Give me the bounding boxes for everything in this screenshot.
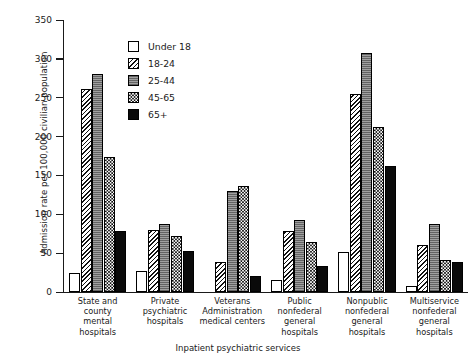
- legend-label: 45-65: [148, 92, 175, 103]
- x-category-label: Nonpublic nonfederal general hospitals: [333, 296, 400, 337]
- bar: [148, 230, 159, 292]
- bar: [69, 273, 80, 292]
- bar-group: [338, 20, 395, 292]
- bar: [183, 251, 194, 292]
- bar: [350, 94, 361, 292]
- bar: [406, 286, 417, 292]
- bar: [373, 127, 384, 292]
- y-tick-label: 350: [0, 15, 52, 25]
- bar: [271, 280, 282, 292]
- legend-item: 45-65: [128, 89, 238, 106]
- y-tick-mark: [56, 214, 64, 215]
- x-axis-title: Inpatient psychiatric services: [0, 343, 476, 353]
- bar: [136, 271, 147, 292]
- bar: [215, 262, 226, 292]
- y-tick-label: 100: [0, 209, 52, 219]
- bar-group: [271, 20, 328, 292]
- y-tick-label: 250: [0, 93, 52, 103]
- bar: [294, 220, 305, 292]
- legend-swatch: [128, 41, 139, 52]
- bar: [429, 224, 440, 292]
- x-axis-line: [63, 292, 468, 293]
- legend-label: Under 18: [148, 41, 191, 52]
- bar: [92, 74, 103, 292]
- bar: [283, 231, 294, 292]
- legend-swatch: [128, 75, 139, 86]
- legend-item: 25-44: [128, 72, 238, 89]
- bar-group: [406, 20, 463, 292]
- bar: [238, 186, 249, 292]
- y-tick-label: 300: [0, 54, 52, 64]
- bar: [81, 89, 92, 292]
- bar: [159, 224, 170, 292]
- y-tick-mark: [56, 58, 64, 59]
- legend-swatch: [128, 109, 139, 120]
- bar: [104, 157, 115, 292]
- bar: [417, 245, 428, 292]
- y-tick-mark: [56, 136, 64, 137]
- x-category-label: State and county mental hospitals: [64, 296, 131, 337]
- legend-item: 65+: [128, 106, 238, 123]
- legend-item: 18-24: [128, 55, 238, 72]
- bar: [171, 236, 182, 292]
- y-tick-mark: [56, 253, 64, 254]
- legend: Under 1818-2425-4445-6565+: [128, 38, 238, 123]
- x-category-label: Veterans Administration medical centers: [199, 296, 266, 327]
- y-tick-label: 200: [0, 132, 52, 142]
- legend-item: Under 18: [128, 38, 238, 55]
- legend-label: 65+: [148, 109, 168, 120]
- bar-chart: Admission rate per 100,000 civilian popu…: [0, 0, 476, 362]
- legend-swatch: [128, 92, 139, 103]
- y-tick-mark: [56, 20, 64, 21]
- y-tick-mark: [56, 97, 64, 98]
- bar: [440, 260, 451, 292]
- y-tick-mark: [56, 292, 64, 293]
- y-tick-label: 150: [0, 170, 52, 180]
- y-tick-label: 50: [0, 248, 52, 258]
- x-category-label: Multiservice nonfederal general hospital…: [401, 296, 468, 337]
- bar: [452, 262, 463, 292]
- legend-swatch: [128, 58, 139, 69]
- y-tick-label: 0: [0, 287, 52, 297]
- bar: [338, 252, 349, 292]
- legend-label: 18-24: [148, 58, 175, 69]
- y-tick-mark: [56, 175, 64, 176]
- bar: [250, 276, 261, 292]
- bar: [227, 191, 238, 292]
- bar: [361, 53, 372, 292]
- bar: [115, 231, 126, 292]
- plot-area: [64, 20, 468, 292]
- bar: [317, 266, 328, 292]
- bar: [306, 242, 317, 293]
- x-category-label: Public nonfederal general hospitals: [266, 296, 333, 337]
- x-category-label: Private psychiatric hospitals: [131, 296, 198, 327]
- legend-label: 25-44: [148, 75, 175, 86]
- bar-group: [69, 20, 126, 292]
- bar: [385, 166, 396, 292]
